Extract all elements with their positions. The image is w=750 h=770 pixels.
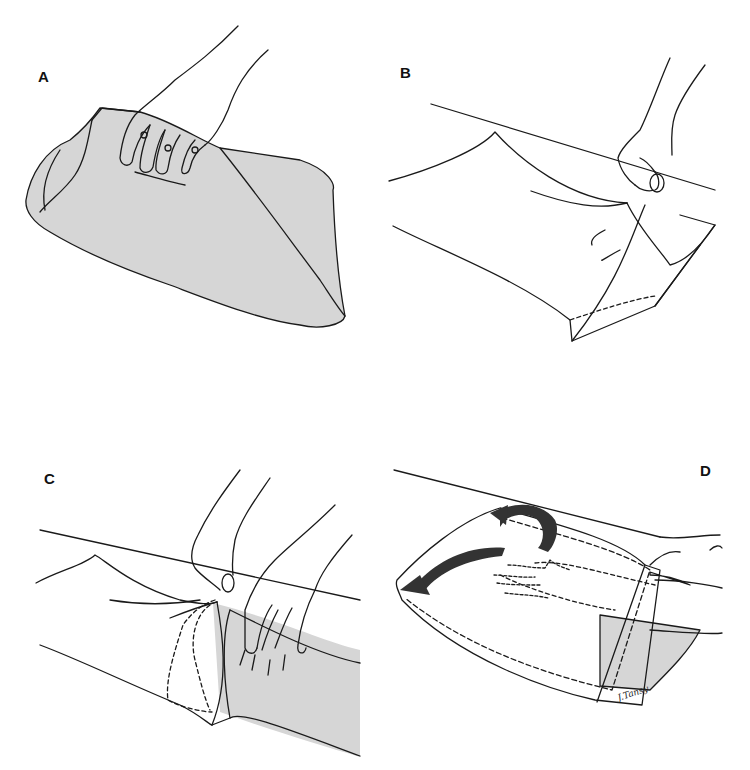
panel-c: C	[0, 420, 375, 770]
panel-label-c: C	[44, 470, 55, 487]
panel-label-d: D	[700, 462, 711, 479]
panel-b: B	[375, 0, 750, 385]
panel-label-a: A	[38, 68, 49, 85]
panel-d: D	[375, 420, 750, 770]
panel-a: A	[0, 0, 375, 385]
panel-label-b: B	[400, 64, 411, 81]
